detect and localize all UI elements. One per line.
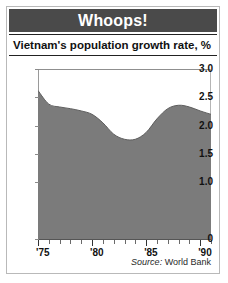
y-axis-labels bbox=[7, 57, 35, 257]
y-axis-tick bbox=[35, 182, 39, 183]
x-axis-tick-minor bbox=[135, 240, 136, 244]
x-axis-tick-major bbox=[38, 240, 39, 246]
subtitle-divider bbox=[9, 55, 217, 56]
source-value: World Bank bbox=[162, 257, 211, 267]
x-axis-tick-minor bbox=[49, 240, 50, 244]
chart-subtitle: Vietnam's population growth rate, % bbox=[13, 38, 217, 52]
x-axis-tick-minor bbox=[70, 240, 71, 244]
source-label: Source: bbox=[131, 257, 162, 267]
x-axis-tick-minor bbox=[189, 240, 190, 244]
y-axis-label: 2.5 bbox=[199, 92, 213, 102]
y-axis-tick bbox=[35, 239, 39, 240]
x-axis-tick-minor bbox=[125, 240, 126, 244]
x-axis-tick-minor bbox=[114, 240, 115, 244]
x-axis-label: '80 bbox=[90, 247, 104, 258]
page-title: Whoops! bbox=[78, 13, 148, 29]
chart-title-banner: Whoops! bbox=[9, 9, 217, 32]
x-axis-tick-minor bbox=[179, 240, 180, 244]
source-note: Source: World Bank bbox=[131, 257, 211, 267]
x-axis-tick-minor bbox=[168, 240, 169, 244]
x-axis-tick-minor bbox=[157, 240, 158, 244]
y-axis-label: 3.0 bbox=[199, 64, 213, 74]
title-divider bbox=[9, 34, 217, 35]
x-axis-ticks bbox=[7, 240, 221, 246]
x-axis-tick-minor bbox=[103, 240, 104, 244]
y-axis-label: 2.0 bbox=[199, 121, 213, 131]
x-axis-label: '75 bbox=[36, 247, 50, 258]
y-axis-label: 0 bbox=[207, 234, 213, 244]
x-axis-tick-minor bbox=[60, 240, 61, 244]
y-axis-label: 1.5 bbox=[199, 149, 213, 159]
y-axis-tick bbox=[35, 126, 39, 127]
y-axis-tick bbox=[35, 69, 39, 70]
x-axis-tick-major bbox=[92, 240, 93, 246]
y-axis-tick bbox=[35, 154, 39, 155]
y-axis-tick bbox=[35, 97, 39, 98]
x-axis-tick-major bbox=[146, 240, 147, 246]
x-axis-tick-major bbox=[200, 240, 201, 246]
chart-figure: Whoops! Vietnam's population growth rate… bbox=[6, 6, 220, 274]
x-axis-tick-minor bbox=[81, 240, 82, 244]
y-axis-label: 1.0 bbox=[199, 177, 213, 187]
area-series-vietnam-growth-rate bbox=[38, 69, 211, 239]
plot-area: '75'80'85'90 3.02.52.01.51.00 bbox=[7, 57, 221, 273]
